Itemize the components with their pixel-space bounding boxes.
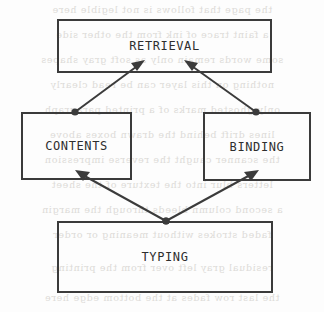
node-typing[interactable]: TYPING xyxy=(57,221,273,293)
ghost-text-line: nothing on this layer can be read clearl… xyxy=(0,79,324,90)
node-retrieval-label: RETRIEVAL xyxy=(129,39,199,53)
ghost-text-line: the last row fades at the bottom edge he… xyxy=(0,292,324,303)
node-binding[interactable]: BINDING xyxy=(203,112,311,181)
node-binding-label: BINDING xyxy=(230,140,285,154)
diagram-canvas: the page that follows is not legible her… xyxy=(0,0,324,312)
ghost-text-line: the page that follows is not legible her… xyxy=(0,4,324,15)
node-retrieval[interactable]: RETRIEVAL xyxy=(57,19,272,73)
ghost-text-line: a second column bleeds through the margi… xyxy=(0,204,324,215)
node-typing-label: TYPING xyxy=(142,250,189,264)
node-contents[interactable]: CONTENTS xyxy=(21,112,132,180)
node-contents-label: CONTENTS xyxy=(45,139,108,153)
